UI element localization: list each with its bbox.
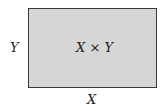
area-label: X × Y <box>76 40 113 55</box>
height-label: Y <box>10 40 19 55</box>
width-label: X <box>87 92 96 107</box>
